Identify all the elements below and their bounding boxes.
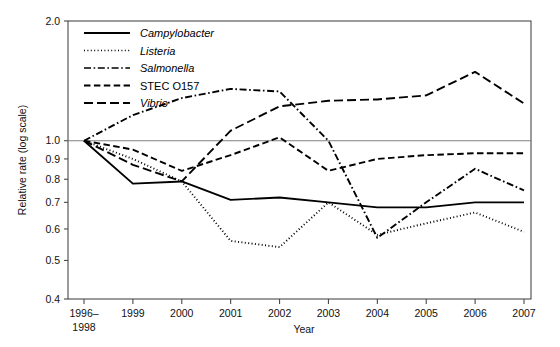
legend-label-listeria: Listeria [140, 45, 175, 57]
legend-label-vibrio: Vibrio [140, 97, 168, 109]
x-axis-tick-label: 2002 [268, 307, 292, 319]
y-axis-tick-label: 0.9 [45, 153, 60, 165]
x-axis-tick-label: 2005 [415, 307, 439, 319]
x-axis-title: Year [293, 323, 315, 335]
x-axis-tick-label: 1996– [69, 307, 98, 319]
series-line-campylobacter [84, 141, 524, 208]
y-axis-tick-label: 0.6 [45, 223, 60, 235]
legend-label-stec-o157: STEC O157 [140, 80, 199, 92]
x-axis-tick-label: 2003 [317, 307, 341, 319]
line-chart: 2.01.00.90.80.70.60.50.41996–19992000200… [0, 0, 560, 347]
series-line-stec-o157 [84, 137, 524, 171]
y-axis-tick-label: 1.0 [45, 134, 60, 146]
legend-label-campylobacter: Campylobacter [140, 27, 215, 39]
y-axis-tick-label: 0.5 [45, 254, 60, 266]
chart-figure: 2.01.00.90.80.70.60.50.41996–19992000200… [0, 0, 560, 347]
x-axis-tick-label: 2000 [170, 307, 194, 319]
x-axis-tick-label: 2001 [219, 307, 243, 319]
series-line-listeria [84, 141, 524, 247]
legend-label-salmonella: Salmonella [140, 62, 194, 74]
x-axis-tick-label: 2007 [512, 307, 536, 319]
y-axis-tick-label: 0.7 [45, 196, 60, 208]
y-axis-tick-label: 2.0 [45, 15, 60, 27]
x-axis-tick-label: 2004 [366, 307, 390, 319]
x-axis-tick-label: 1999 [121, 307, 145, 319]
plot-frame [68, 21, 531, 299]
y-axis-tick-label: 0.4 [45, 293, 60, 305]
x-axis-tick-label: 2006 [463, 307, 487, 319]
y-axis-title: Relative rate (log scale) [16, 105, 28, 215]
y-axis-tick-label: 0.8 [45, 173, 60, 185]
x-axis-tick-label-second-line: 1998 [72, 321, 96, 333]
series-line-salmonella [84, 89, 524, 238]
